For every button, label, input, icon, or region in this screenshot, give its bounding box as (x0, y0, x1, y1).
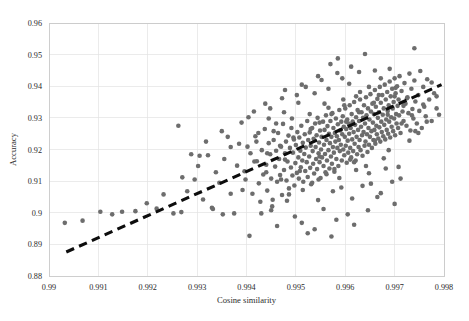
x-axis-title: Cosine similarity (217, 295, 277, 305)
y-tick-label: 0.88 (28, 272, 42, 281)
y-tick-label: 0.89 (28, 240, 42, 249)
x-tick-label: 0.996 (336, 283, 354, 292)
y-tick-label: 0.96 (28, 19, 42, 28)
y-tick-label: 0.93 (28, 114, 42, 123)
y-tick-label: 0.94 (28, 82, 42, 91)
y-tick-label: 0.95 (28, 51, 42, 60)
x-tick-label: 0.99 (42, 283, 56, 292)
x-tick-label: 0.994 (237, 283, 255, 292)
x-tick-label: 0.991 (89, 283, 107, 292)
chart-canvas: 0.990.9910.9920.9930.9940.9950.9960.9970… (0, 0, 469, 321)
gridlines (49, 23, 444, 276)
x-tick-label: 0.995 (287, 283, 305, 292)
x-tick-label: 0.993 (188, 283, 206, 292)
y-tick-label: 0.9 (32, 209, 42, 218)
y-tick-label: 0.92 (28, 146, 42, 155)
y-axis-title: Accuracy (8, 132, 18, 166)
x-tick-label: 0.992 (139, 283, 157, 292)
y-axis-tick-labels: 0.880.890.90.910.920.930.940.950.96 (28, 19, 42, 281)
scatter-plot-figure: 0.990.9910.9920.9930.9940.9950.9960.9970… (0, 0, 469, 321)
data-points-group (63, 46, 442, 239)
x-tick-label: 0.998 (435, 283, 453, 292)
x-axis-tick-labels: 0.990.9910.9920.9930.9940.9950.9960.9970… (42, 283, 453, 292)
x-tick-label: 0.997 (385, 283, 403, 292)
y-tick-label: 0.91 (28, 177, 42, 186)
